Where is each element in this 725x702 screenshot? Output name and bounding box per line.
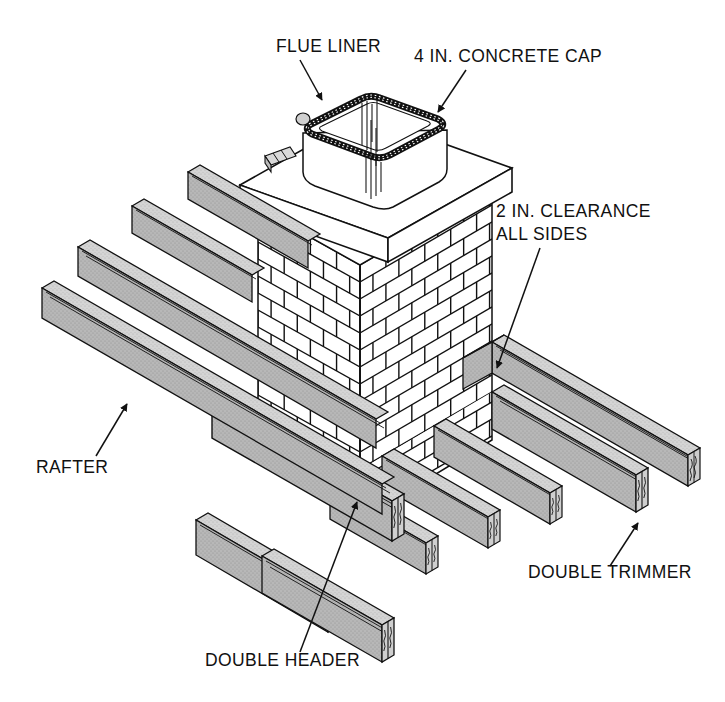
leader-concrete-cap: [438, 70, 466, 112]
flue-rim-nub: [296, 113, 310, 125]
chimney-framing-illustration: FLUE LINER4 IN. CONCRETE CAP2 IN. CLEARA…: [0, 0, 725, 702]
label-double-header: DOUBLE HEADER: [205, 650, 360, 670]
label-clearance-line1: 2 IN. CLEARANCE: [496, 201, 651, 221]
label-flue-liner: FLUE LINER: [276, 36, 381, 56]
diagram-canvas: FLUE LINER4 IN. CONCRETE CAP2 IN. CLEARA…: [0, 0, 725, 702]
label-double-trimmer: DOUBLE TRIMMER: [528, 562, 692, 582]
label-clearance-line2: ALL SIDES: [496, 224, 587, 244]
label-concrete-cap: 4 IN. CONCRETE CAP: [414, 46, 602, 66]
leader-rafter: [96, 404, 127, 456]
leader-double-trimmer: [610, 523, 638, 566]
leader-flue-liner: [300, 60, 322, 100]
label-rafter: RAFTER: [36, 457, 108, 477]
